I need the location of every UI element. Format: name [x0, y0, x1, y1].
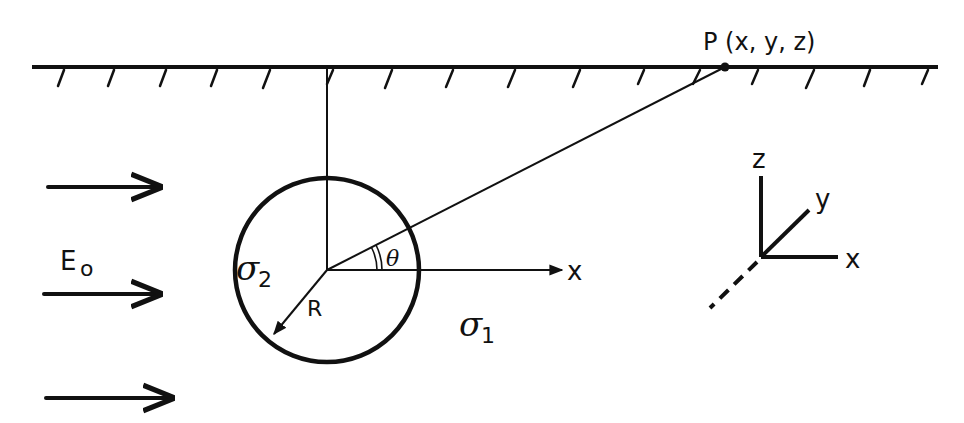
ground-surface — [32, 67, 938, 88]
angle-theta-arc — [372, 245, 383, 270]
svg-text:E: E — [60, 246, 76, 276]
svg-text:σ: σ — [459, 304, 483, 344]
line-to-point-p — [327, 67, 725, 270]
buried-sphere-diagram: P (x, y, z) E o σ 2 σ 1 R θ x z y x — [0, 0, 964, 423]
sphere-conductivity-label: σ 2 — [236, 248, 272, 292]
field-arrows — [44, 187, 172, 398]
host-conductivity-label: σ 1 — [459, 304, 495, 348]
field-label: E o — [60, 246, 93, 281]
x-axis-label: x — [567, 256, 582, 286]
axis-x-label: x — [845, 244, 860, 274]
svg-text:o: o — [80, 256, 93, 281]
angle-label: θ — [386, 246, 399, 271]
radius-label: R — [307, 296, 322, 321]
ground-hatching — [58, 70, 928, 88]
point-p-label: P (x, y, z) — [703, 28, 815, 56]
point-p-dot — [721, 63, 730, 72]
svg-text:2: 2 — [258, 267, 272, 292]
svg-text:1: 1 — [481, 323, 495, 348]
axis-z-label: z — [752, 144, 766, 174]
svg-text:σ: σ — [236, 248, 260, 288]
axis-y-label: y — [815, 184, 830, 214]
